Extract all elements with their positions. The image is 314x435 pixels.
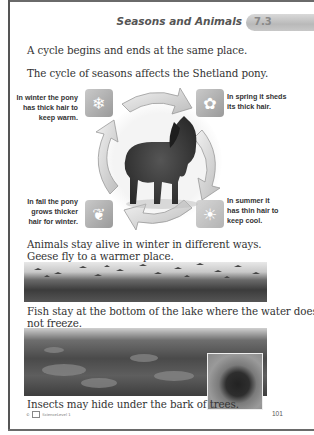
chapter-title: Seasons and Animals: [117, 15, 242, 27]
snowflake-glyph: ❄: [92, 94, 105, 113]
spring-label: In spring it sheds its thick hair.: [227, 92, 307, 112]
page-frame-left: [8, 0, 10, 431]
flower-glyph: ✿: [203, 94, 216, 113]
lesson-number: 7.3: [254, 16, 272, 27]
winter-label: In winter the pony has thick hair to kee…: [12, 93, 78, 123]
sun-glyph: ☀: [203, 205, 217, 224]
fall-label-line: hair for winter.: [12, 217, 78, 227]
geese-flock-image: [24, 262, 267, 302]
leaf-glyph: ❦: [92, 205, 105, 224]
lesson-badge: 7.3: [246, 14, 314, 31]
page-header: Seasons and Animals 7.3: [0, 14, 314, 32]
summer-label-line: In summer it: [227, 196, 307, 206]
copyright-symbol: ©: [26, 412, 30, 417]
pony-intro-text: The cycle of seasons affects the Shetlan…: [27, 67, 268, 79]
summer-label-line: keep cool.: [227, 216, 307, 226]
fall-leaf-icon: ❦: [85, 200, 113, 228]
shetland-pony-image: [118, 112, 200, 212]
publisher-logo-icon: [32, 411, 40, 418]
animals-intro-text: Animals stay alive in winter in differen…: [27, 238, 262, 250]
page-number: 101: [272, 410, 283, 417]
fall-label-line: In fall the pony: [12, 197, 78, 207]
winter-snowflake-icon: ❄: [85, 89, 113, 117]
insects-text: Insects may hide under the bark of trees…: [27, 398, 239, 410]
fall-label: In fall the pony grows thicker hair for …: [12, 197, 78, 227]
winter-label-line: has thick hair to: [12, 103, 78, 113]
seasons-cycle-diagram: ❄ ✿ ☀ ❦: [80, 82, 240, 240]
spring-label-line: In spring it sheds: [227, 92, 307, 102]
winter-label-line: In winter the pony: [12, 93, 78, 103]
winter-label-line: keep warm.: [12, 113, 78, 123]
fall-label-line: grows thicker: [12, 207, 78, 217]
summer-label-line: has thin hair to: [227, 206, 307, 216]
geese-photo: [24, 262, 267, 302]
summer-label: In summer it has thin hair to keep cool.: [227, 196, 307, 226]
summer-sun-icon: ☀: [196, 200, 224, 228]
footer-copyright: © ScienceLevel 1: [26, 411, 71, 418]
spring-label-line: its thick hair.: [227, 102, 307, 112]
publisher-name: ScienceLevel 1: [42, 412, 70, 417]
cycle-intro-text: A cycle begins and ends at the same plac…: [27, 44, 247, 56]
page-frame-bottom: [8, 429, 314, 431]
fish-text-line1: Fish stay at the bottom of the lake wher…: [27, 305, 314, 317]
page-frame-top: [8, 0, 314, 2]
spring-flower-icon: ✿: [196, 89, 224, 117]
geese-text: Geese fly to a warmer place.: [27, 250, 174, 262]
